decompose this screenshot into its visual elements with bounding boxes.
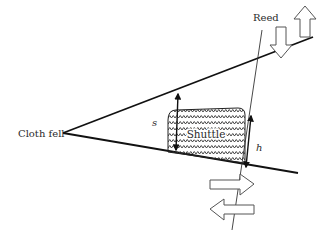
h-dimension-arrow: [246, 116, 251, 167]
s-label: s: [152, 117, 157, 128]
cloth-fell-label: Cloth fell: [18, 128, 65, 139]
shuttle-label: Shuttle: [187, 128, 226, 140]
down-arrow-icon: [270, 27, 292, 58]
left-arrow-icon: [210, 199, 254, 220]
h-label: h: [256, 142, 262, 153]
right-arrow-icon: [210, 174, 254, 195]
up-arrow-icon: [294, 6, 316, 37]
weaving-shed-diagram: Shuttle s h Cloth fell Reed: [0, 0, 326, 234]
shuttle: Shuttle: [168, 108, 245, 163]
reed-label: Reed: [253, 12, 279, 23]
